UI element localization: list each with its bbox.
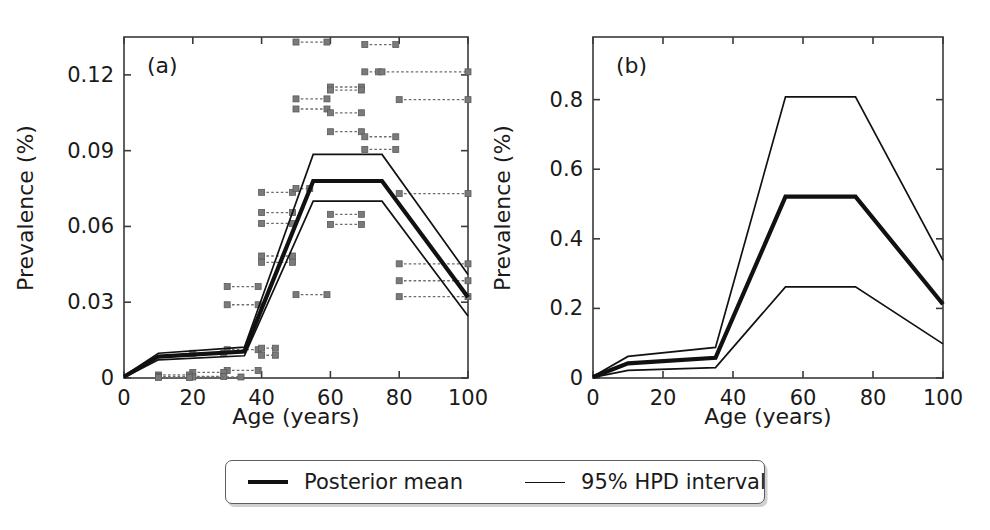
observation-marker (290, 259, 296, 265)
observation-marker (327, 87, 333, 93)
panel-b-plot-area: 02040608010000.20.40.60.8 (550, 37, 963, 410)
panel-a: 02040608010000.030.060.090.12 (a) Age (y… (0, 0, 495, 438)
x-tick-label: 0 (117, 386, 130, 410)
y-tick-label: 0.03 (67, 290, 114, 314)
observation-marker (393, 134, 399, 140)
posterior-mean-line (124, 181, 468, 377)
panel-b-tick-labels: 02040608010000.20.40.60.8 (550, 88, 963, 410)
observation-marker (293, 106, 299, 112)
y-tick-label: 0.6 (550, 157, 583, 181)
y-tick-label: 0.4 (550, 227, 583, 251)
y-tick-label: 0.09 (67, 139, 114, 163)
panel-a-svg: 02040608010000.030.060.090.12 (a) Age (y… (0, 0, 495, 438)
observation-marker (255, 367, 261, 373)
observation-marker (324, 39, 330, 45)
observation-marker (379, 69, 385, 75)
observation-marker (155, 374, 161, 380)
observation-marker (396, 191, 402, 197)
y-tick-label: 0.12 (67, 63, 114, 87)
observation-marker (324, 96, 330, 102)
line-thick-icon (248, 480, 288, 484)
y-tick-label: 0 (101, 366, 114, 390)
legend-box: Posterior mean 95% HPD interval (225, 460, 765, 504)
posterior-mean-line (593, 197, 943, 377)
x-tick-label: 100 (448, 386, 488, 410)
figure-root: 02040608010000.030.060.090.12 (a) Age (y… (0, 0, 990, 530)
observation-marker (465, 278, 471, 284)
observation-marker (293, 39, 299, 45)
observation-marker (396, 261, 402, 267)
observation-marker (224, 284, 230, 290)
legend-entry-hpd-interval: 95% HPD interval (525, 472, 766, 493)
y-tick-label: 0 (570, 366, 583, 390)
line-thin-icon (525, 482, 565, 483)
panel-a-plot-area: 02040608010000.030.060.090.12 (67, 37, 488, 410)
legend-label-posterior-mean: Posterior mean (304, 472, 463, 493)
observation-marker (358, 211, 364, 217)
x-tick-label: 0 (586, 386, 599, 410)
observation-marker (186, 374, 192, 380)
observation-marker (259, 210, 265, 216)
observation-marker (362, 134, 368, 140)
x-tick-label: 80 (386, 386, 413, 410)
legend-label-hpd-interval: 95% HPD interval (581, 472, 766, 493)
panel-b-yaxis-label: Prevalence (%) (490, 125, 515, 291)
panel-a-yaxis-label: Prevalence (%) (13, 125, 38, 291)
y-tick-label: 0.8 (550, 88, 583, 112)
observation-marker (327, 129, 333, 135)
observation-marker (465, 97, 471, 103)
observation-marker (393, 42, 399, 48)
panel-b-series-lines (593, 97, 943, 377)
observation-marker (396, 294, 402, 300)
observation-marker (259, 253, 265, 259)
observation-marker (362, 146, 368, 152)
y-tick-label: 0.06 (67, 214, 114, 238)
observation-marker (327, 211, 333, 217)
x-tick-label: 80 (860, 386, 887, 410)
observation-marker (224, 302, 230, 308)
observation-marker (465, 261, 471, 267)
panel-b-xaxis-label: Age (years) (704, 404, 831, 429)
x-tick-label: 20 (650, 386, 677, 410)
legend-container: Posterior mean 95% HPD interval (0, 438, 990, 530)
observation-marker (293, 292, 299, 298)
observation-marker (293, 186, 299, 192)
observation-marker (324, 292, 330, 298)
observation-marker (259, 259, 265, 265)
panel-b-ticks (593, 37, 943, 378)
panel-a-observation-segments (155, 39, 471, 380)
observation-marker (362, 42, 368, 48)
panel-b: 02040608010000.20.40.60.8 (b) Age (years… (495, 0, 990, 438)
panel-a-axes-frame (124, 37, 468, 378)
observation-marker (393, 146, 399, 152)
observation-marker (259, 352, 265, 358)
observation-marker (259, 345, 265, 351)
panels-container: 02040608010000.030.060.090.12 (a) Age (y… (0, 0, 990, 438)
panel-b-svg: 02040608010000.20.40.60.8 (b) Age (years… (495, 0, 990, 438)
observation-marker (259, 220, 265, 226)
observation-marker (272, 345, 278, 351)
x-tick-label: 100 (923, 386, 963, 410)
observation-marker (327, 110, 333, 116)
observation-marker (272, 352, 278, 358)
observation-marker (327, 221, 333, 227)
x-tick-label: 20 (179, 386, 206, 410)
panel-b-tag: (b) (616, 53, 647, 78)
y-tick-label: 0.2 (550, 296, 583, 320)
observation-marker (238, 374, 244, 380)
observation-marker (396, 278, 402, 284)
panel-a-xaxis-label: Age (years) (232, 404, 359, 429)
observation-marker (396, 97, 402, 103)
observation-marker (293, 96, 299, 102)
observation-marker (358, 87, 364, 93)
panel-a-tag: (a) (147, 53, 178, 78)
panel-a-ticks (124, 37, 468, 378)
observation-marker (358, 221, 364, 227)
observation-marker (255, 284, 261, 290)
legend-entry-posterior-mean: Posterior mean (248, 472, 463, 493)
observation-marker (259, 189, 265, 195)
observation-marker (358, 110, 364, 116)
observation-marker (465, 69, 471, 75)
observation-marker (362, 69, 368, 75)
panel-b-axes-frame (593, 37, 943, 378)
